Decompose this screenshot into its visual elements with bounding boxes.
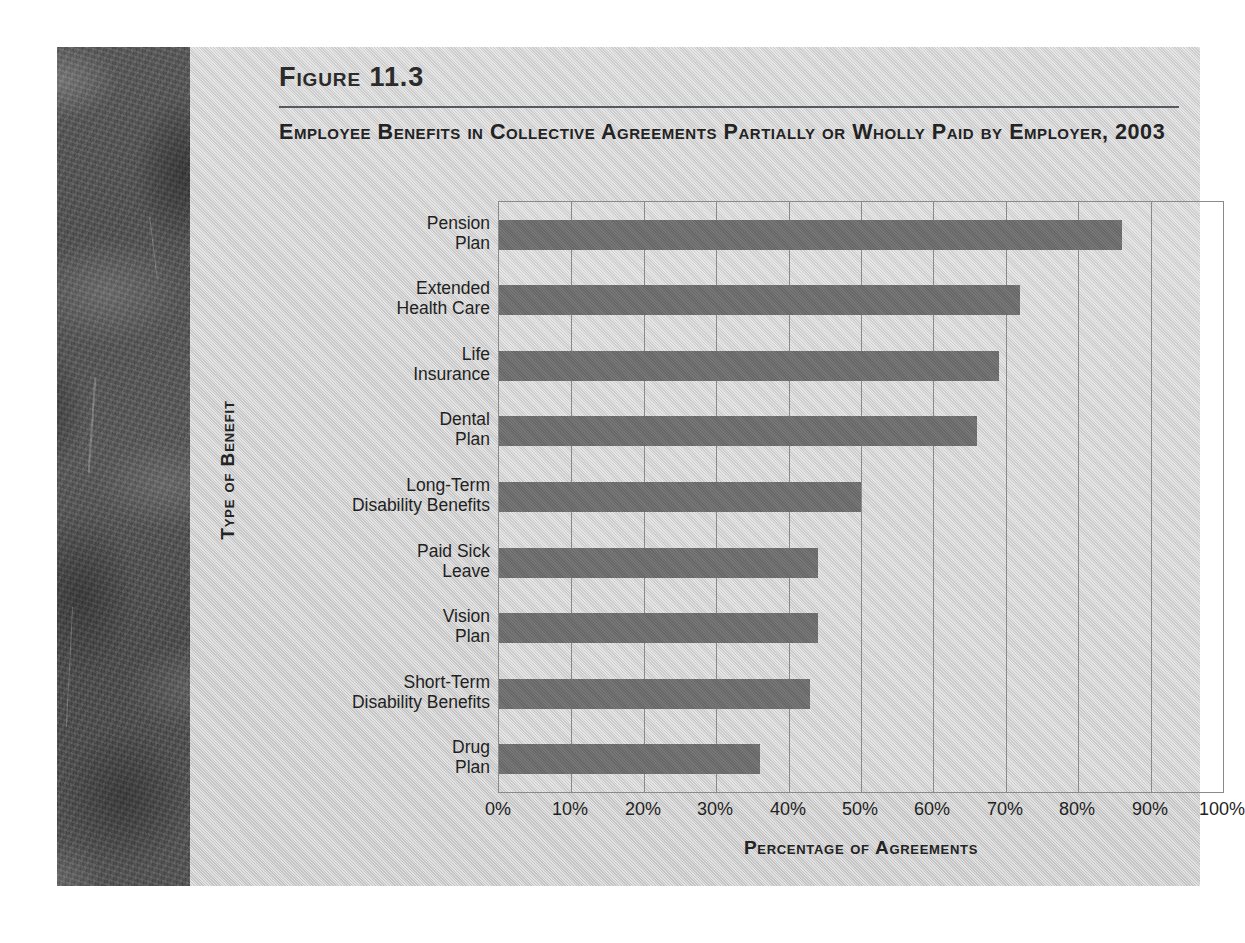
bar bbox=[499, 220, 1122, 250]
bar bbox=[499, 416, 977, 446]
x-axis-tick-label: 50% bbox=[825, 799, 895, 820]
x-axis-tick-label: 20% bbox=[608, 799, 678, 820]
x-axis-title: Percentage of Agreements bbox=[498, 837, 1224, 859]
bar bbox=[499, 285, 1020, 315]
y-axis-tick-label: Life Insurance bbox=[240, 344, 490, 385]
y-axis-tick-label: Short-Term Disability Benefits bbox=[240, 672, 490, 713]
y-axis-tick-label: Vision Plan bbox=[240, 606, 490, 647]
plot-area bbox=[498, 201, 1224, 793]
bar bbox=[499, 744, 760, 774]
x-axis-tick-label: 30% bbox=[680, 799, 750, 820]
x-axis-tick-label: 0% bbox=[463, 799, 533, 820]
x-axis-tick-label: 60% bbox=[897, 799, 967, 820]
y-axis-tick-labels: Pension PlanExtended Health CareLife Ins… bbox=[240, 201, 490, 793]
y-axis-tick-label: Dental Plan bbox=[240, 409, 490, 450]
x-axis-tick-label: 90% bbox=[1115, 799, 1185, 820]
y-axis-title: Type of Benefit bbox=[217, 370, 239, 570]
bar-chart: Type of Benefit Pension PlanExtended Hea… bbox=[190, 47, 1200, 886]
bar bbox=[499, 613, 818, 643]
bar bbox=[499, 351, 999, 381]
y-axis-tick-label: Long-Term Disability Benefits bbox=[240, 475, 490, 516]
figure-panel: Figure 11.3 Employee Benefits in Collect… bbox=[57, 47, 1200, 886]
y-axis-tick-label: Drug Plan bbox=[240, 737, 490, 778]
grid-line bbox=[1151, 202, 1152, 792]
grid-line bbox=[1223, 202, 1224, 792]
figure-content: Figure 11.3 Employee Benefits in Collect… bbox=[190, 47, 1200, 886]
x-axis-tick-label: 40% bbox=[753, 799, 823, 820]
bar bbox=[499, 548, 818, 578]
stone-texture bbox=[57, 47, 190, 886]
y-axis-tick-label: Paid Sick Leave bbox=[240, 541, 490, 582]
x-axis-tick-label: 100% bbox=[1187, 799, 1245, 820]
x-axis-tick-labels: 0%10%20%30%40%50%60%70%80%90%100% bbox=[498, 799, 1224, 829]
y-axis-tick-label: Extended Health Care bbox=[240, 278, 490, 319]
decorative-stone-photo-strip bbox=[57, 47, 190, 886]
y-axis-tick-label: Pension Plan bbox=[240, 213, 490, 254]
bar bbox=[499, 679, 810, 709]
x-axis-tick-label: 80% bbox=[1042, 799, 1112, 820]
page-root: Figure 11.3 Employee Benefits in Collect… bbox=[0, 0, 1245, 943]
grid-line bbox=[1078, 202, 1079, 792]
x-axis-tick-label: 10% bbox=[535, 799, 605, 820]
bar bbox=[499, 482, 861, 512]
x-axis-tick-label: 70% bbox=[970, 799, 1040, 820]
